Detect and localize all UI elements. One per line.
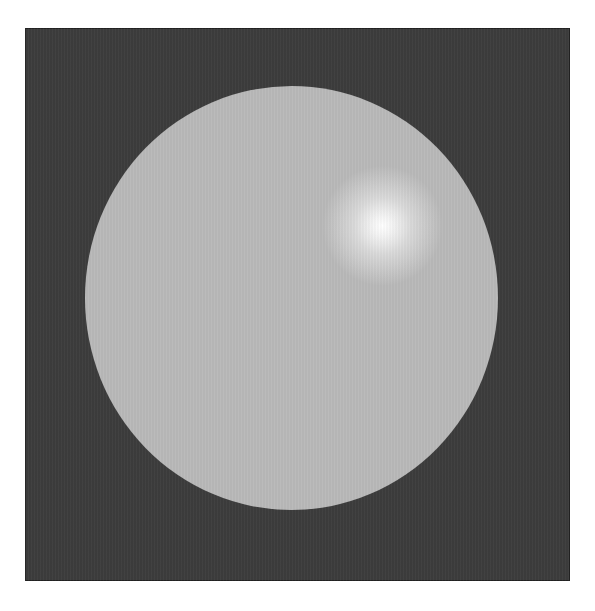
render-viewport — [25, 28, 570, 581]
shaded-sphere — [85, 86, 498, 510]
render-canvas — [0, 0, 595, 611]
